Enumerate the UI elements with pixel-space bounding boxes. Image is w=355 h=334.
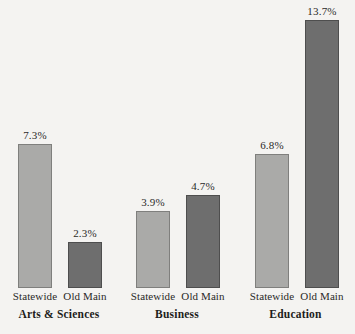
axis-label-old-main: Old Main <box>170 290 236 302</box>
group-label-education: Education <box>236 308 355 320</box>
group-label-business: Business <box>118 308 236 320</box>
bar-old-main[interactable] <box>305 20 339 288</box>
bar-group-education: 6.8% 13.7% <box>236 0 355 288</box>
group-label-arts-sciences: Arts & Sciences <box>0 308 118 320</box>
bar-value-label: 2.3% <box>73 227 97 239</box>
bar-statewide[interactable] <box>136 211 170 288</box>
bar-value-label: 13.7% <box>307 5 336 17</box>
bar-old-main[interactable] <box>186 195 220 288</box>
bar-value-label: 3.9% <box>141 196 165 208</box>
bar-statewide[interactable] <box>18 144 52 288</box>
plot-area: 7.3% 2.3% 3.9% 4.7% 6.8% <box>0 0 355 288</box>
bar-value-label: 7.3% <box>23 129 47 141</box>
bar-group-business: 3.9% 4.7% <box>118 0 236 288</box>
axis-label-old-main: Old Main <box>289 290 355 302</box>
bar-statewide[interactable] <box>255 154 289 288</box>
bar-value-label: 6.8% <box>260 139 284 151</box>
axis-label-old-main: Old Main <box>52 290 118 302</box>
bar-group-arts-sciences: 7.3% 2.3% <box>0 0 118 288</box>
bar-old-main[interactable] <box>68 242 102 288</box>
grouped-bar-chart: 7.3% 2.3% 3.9% 4.7% 6.8% <box>0 0 355 334</box>
bar-value-label: 4.7% <box>191 180 215 192</box>
scan-bleed-artifact <box>0 326 355 334</box>
